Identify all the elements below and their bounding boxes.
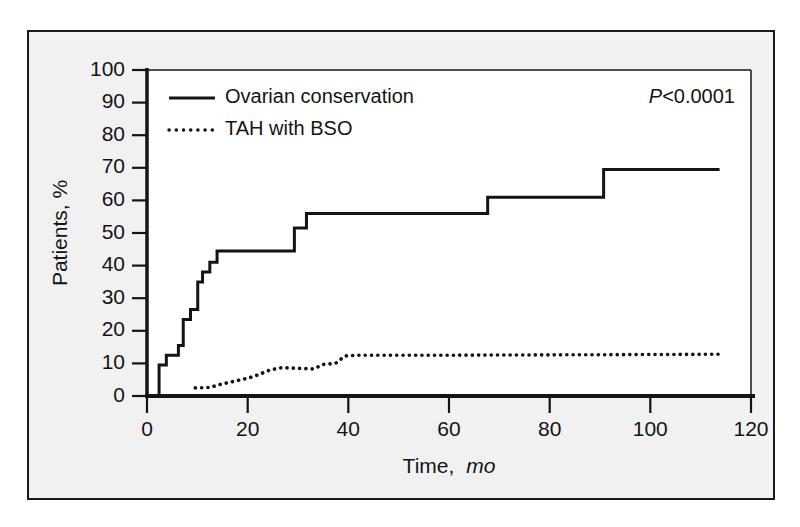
y-tick-label-40: 40 (102, 252, 125, 275)
p-value-number: <0.0001 (662, 85, 735, 107)
y-tick-label-20: 20 (102, 317, 125, 340)
x-tick-label-80: 80 (538, 417, 561, 440)
x-tick-label-60: 60 (437, 417, 460, 440)
y-axis-title: Patients, % (48, 180, 71, 286)
x-tick-label-20: 20 (236, 417, 259, 440)
y-axis-ticks (132, 70, 147, 396)
legend-label-tah-with-bso: TAH with BSO (225, 117, 352, 139)
x-tick-label-0: 0 (141, 417, 153, 440)
y-tick-label-10: 10 (102, 350, 125, 373)
y-tick-label-90: 90 (102, 89, 125, 112)
y-axis-tick-labels: 100 90 80 70 60 50 40 30 20 10 0 (90, 57, 125, 406)
x-tick-label-120: 120 (733, 417, 768, 440)
x-axis-tick-labels: 0 20 40 60 80 100 120 (141, 417, 768, 440)
y-tick-label-100: 100 (90, 57, 125, 80)
x-axis-title-main: Time, (403, 454, 455, 477)
y-tick-label-80: 80 (102, 122, 125, 145)
y-tick-label-70: 70 (102, 154, 125, 177)
legend-label-ovarian-conservation: Ovarian conservation (225, 85, 414, 107)
x-axis-title: Time, mo (403, 454, 496, 477)
x-tick-label-40: 40 (337, 417, 360, 440)
x-tick-label-100: 100 (633, 417, 668, 440)
figure-border-frame: 100 90 80 70 60 50 40 30 20 10 0 Patient… (27, 30, 775, 500)
y-tick-label-30: 30 (102, 285, 125, 308)
y-tick-label-60: 60 (102, 187, 125, 210)
kaplan-meier-chart: 100 90 80 70 60 50 40 30 20 10 0 Patient… (29, 32, 773, 498)
x-axis-ticks (147, 398, 751, 413)
y-tick-label-0: 0 (113, 383, 125, 406)
p-value-annotation: P<0.0001 (649, 85, 735, 107)
figure-root: 100 90 80 70 60 50 40 30 20 10 0 Patient… (0, 0, 800, 527)
x-axis-title-units: mo (466, 454, 495, 477)
p-value-symbol: P (649, 85, 663, 107)
y-tick-label-50: 50 (102, 220, 125, 243)
